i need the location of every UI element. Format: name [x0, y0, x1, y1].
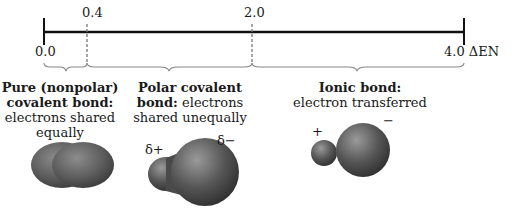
caption-ionic: Ionic bond: electron transferred	[290, 80, 430, 110]
charge-delta-plus: δ+	[145, 142, 164, 157]
charge-minus: −	[383, 113, 394, 128]
brace-nonpolar	[44, 63, 87, 71]
nonpolar-molecule-icon	[31, 142, 114, 188]
tick-label-0-4: 0.4	[82, 6, 103, 20]
charge-plus: +	[312, 124, 323, 139]
caption-nonpolar: Pure (nonpolar) covalent bond: electrons…	[0, 80, 120, 140]
brace-ionic	[252, 63, 464, 71]
charge-delta-minus: δ−	[217, 133, 236, 148]
brace-polar	[87, 63, 252, 71]
tick-label-2-0: 2.0	[244, 6, 265, 20]
tick-label-4-0: 4.0 ΔEN	[444, 45, 499, 59]
caption-polar: Polar covalent bond: electrons shared un…	[130, 80, 250, 125]
tick-label-0-0: 0.0	[35, 45, 56, 59]
axis-label: ΔEN	[469, 44, 499, 59]
